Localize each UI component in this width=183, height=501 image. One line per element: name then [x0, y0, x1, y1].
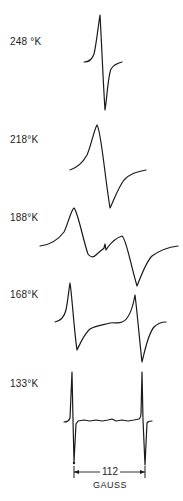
scale-value: 112 [100, 467, 120, 477]
spectrum-188k [40, 208, 178, 286]
arrow-left-icon [74, 470, 79, 474]
temperature-label-188k: 188°K [10, 212, 38, 223]
spectrum-218k [70, 125, 146, 208]
spectra-plot [0, 0, 183, 501]
temperature-label-248k: 248 °K [10, 36, 41, 47]
temperature-label-168k: 168°K [10, 289, 38, 300]
epr-spectra-figure: 248 °K 218°K 188°K 168°K 133°K 112 GAUSS [0, 0, 183, 501]
trace-dot [73, 462, 75, 464]
temperature-label-218k: 218°K [10, 134, 38, 145]
spectrum-168k [55, 283, 166, 362]
arrow-right-icon [140, 470, 145, 474]
temperature-label-133k: 133°K [10, 378, 38, 389]
scale-unit: GAUSS [93, 480, 127, 490]
spectrum-248k [84, 15, 122, 110]
spectrum-133k [64, 372, 152, 465]
